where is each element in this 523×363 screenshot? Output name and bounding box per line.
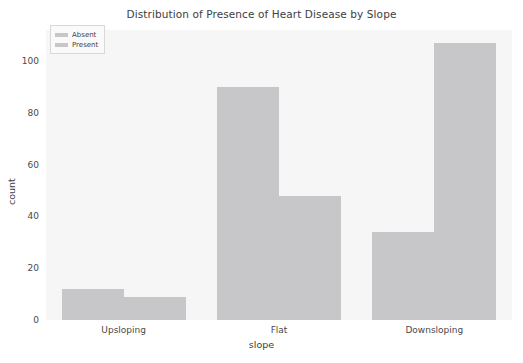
bar-downsloping-absent — [372, 232, 434, 320]
y-axis: count 020406080100 — [0, 30, 46, 320]
y-tick-label: 0 — [33, 315, 39, 325]
legend-label: Present — [72, 41, 98, 49]
x-tick-label: Flat — [271, 325, 288, 335]
y-tick-label: 80 — [28, 108, 39, 118]
bar-flat-present — [279, 196, 341, 320]
y-axis-label: count — [6, 178, 17, 205]
chart-figure: Distribution of Presence of Heart Diseas… — [0, 0, 523, 363]
legend-item-present: Present — [55, 40, 98, 49]
bar-downsloping-present — [434, 43, 496, 320]
legend-swatch-icon — [55, 43, 68, 47]
chart-title: Distribution of Presence of Heart Diseas… — [0, 8, 523, 20]
y-tick-label: 60 — [28, 160, 39, 170]
y-tick-label: 40 — [28, 211, 39, 221]
bars-layer — [46, 30, 512, 320]
legend-label: Absent — [72, 31, 96, 39]
x-axis-label: slope — [0, 339, 523, 350]
bar-upsloping-present — [124, 297, 186, 320]
x-tick-label: Upsloping — [101, 325, 146, 335]
legend-item-absent: Absent — [55, 30, 98, 39]
chart-legend: AbsentPresent — [50, 25, 105, 54]
plot-area — [46, 30, 512, 320]
x-tick-label: Downsloping — [405, 325, 463, 335]
bar-upsloping-absent — [62, 289, 124, 320]
x-axis: UpslopingFlatDownsloping — [46, 320, 512, 340]
bar-flat-absent — [217, 87, 279, 320]
legend-swatch-icon — [55, 33, 68, 37]
y-tick-label: 20 — [28, 263, 39, 273]
y-tick-label: 100 — [22, 56, 39, 66]
